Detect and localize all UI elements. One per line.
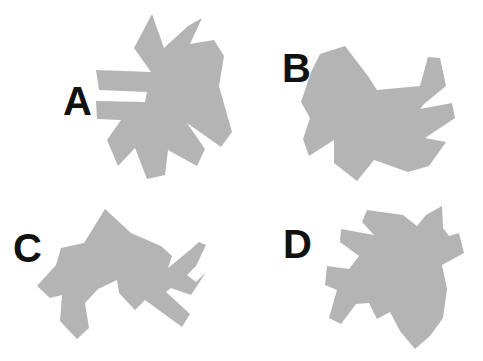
abstract-polygon-b — [301, 46, 455, 181]
abstract-polygon-d — [325, 206, 464, 349]
shape-panel-d[interactable] — [241, 181, 483, 361]
shape-label-b: B — [282, 48, 311, 88]
shape-d-graphic — [241, 181, 483, 361]
shape-panel-a[interactable] — [0, 0, 241, 181]
shape-a-graphic — [0, 0, 241, 181]
shape-panel-c[interactable] — [0, 181, 241, 361]
stimulus-board: A B C D — [0, 0, 483, 361]
shape-b-graphic — [241, 0, 483, 181]
shape-label-c: C — [13, 228, 42, 268]
shape-c-graphic — [0, 181, 241, 361]
abstract-polygon-c — [37, 209, 206, 339]
shape-panel-b[interactable] — [241, 0, 483, 181]
shape-label-a: A — [63, 81, 92, 121]
abstract-polygon-a — [96, 14, 232, 179]
shape-label-d: D — [283, 224, 312, 264]
